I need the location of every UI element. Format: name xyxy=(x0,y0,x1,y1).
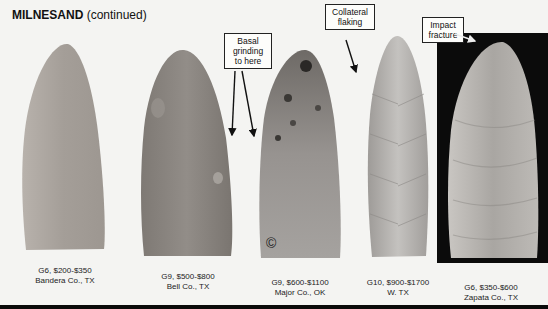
callout-line: to here xyxy=(228,56,268,66)
artifact-2-image xyxy=(138,48,238,258)
callout-basal-grinding: Basal grinding to here xyxy=(224,33,272,69)
callout-line: flaking xyxy=(329,17,371,27)
callout-line: fracture xyxy=(426,30,460,40)
caption-artifact-2: G9, $500-$800 Bell Co., TX xyxy=(133,272,243,292)
grade-price: G9, $600-$1100 xyxy=(245,278,355,288)
grade-price: G9, $500-$800 xyxy=(133,272,243,282)
callout-impact-fracture: Impact fracture xyxy=(422,17,464,43)
location: Major Co., OK xyxy=(245,288,355,298)
artifact-5-image xyxy=(445,40,540,260)
callout-collateral-flaking: Collateral flaking xyxy=(325,4,375,30)
bottom-rule xyxy=(0,305,548,309)
artifact-4-image xyxy=(362,34,434,259)
callout-line: grinding xyxy=(228,46,268,56)
caption-artifact-3: G9, $600-$1100 Major Co., OK xyxy=(245,278,355,298)
callout-line: Basal xyxy=(228,36,268,46)
artifact-3-image: © xyxy=(258,48,343,260)
page-title: MILNESAND (continued) xyxy=(12,8,147,22)
location: Zapata Co., TX xyxy=(436,293,546,303)
caption-artifact-1: G6, $200-$350 Bandera Co., TX xyxy=(10,266,120,286)
callout-line: Collateral xyxy=(329,7,371,17)
location: Bell Co., TX xyxy=(133,282,243,292)
location: Bandera Co., TX xyxy=(10,276,120,286)
callout-line: Impact xyxy=(426,20,460,30)
svg-text:©: © xyxy=(266,235,277,251)
title-bold: MILNESAND xyxy=(12,8,83,22)
grade-price: G6, $200-$350 xyxy=(10,266,120,276)
title-suffix: (continued) xyxy=(83,8,146,22)
caption-artifact-5: G6, $350-$600 Zapata Co., TX xyxy=(436,283,546,303)
grade-price: G6, $350-$600 xyxy=(436,283,546,293)
artifact-1-image xyxy=(18,42,110,252)
